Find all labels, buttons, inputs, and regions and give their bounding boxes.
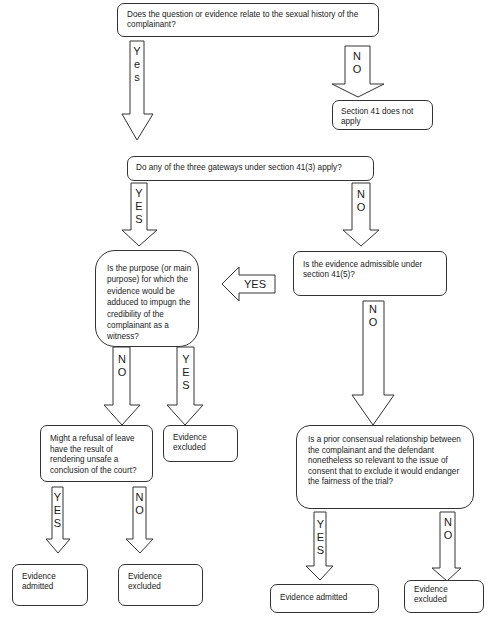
node-evidence-admitted-prior: Evidence admitted (270, 584, 379, 613)
flow-arrows (0, 0, 489, 626)
node-evidence-admitted-refusal: Evidence admitted (12, 564, 88, 606)
node-sexual-history-question: Does the question or evidence relate to … (117, 3, 379, 37)
node-admissible-41-5-question: Is the evidence admissible under section… (293, 251, 447, 296)
node-prior-relationship-question: Is a prior consensual relationship betwe… (296, 425, 474, 509)
edge-label-no-admissible: N O (366, 303, 380, 329)
edge-label-yes-purpose: Y E S (179, 353, 193, 392)
edge-label-no-purpose: N O (115, 353, 129, 379)
node-section41-does-not-apply: Section 41 does not apply (332, 100, 433, 130)
edge-label-no-sexual-history: N O (350, 50, 364, 76)
edge-label-no-prior: N O (441, 516, 455, 542)
node-purpose-question: Is the purpose (or main purpose) for whi… (95, 250, 199, 347)
edge-label-yes-admissible: YES (236, 278, 274, 291)
edge-label-yes-gateways: Y E S (132, 187, 146, 226)
node-evidence-excluded-refusal: Evidence excluded (118, 564, 203, 606)
edge-label-yes-prior: Y E S (314, 518, 327, 557)
edge-label-no-gateways: N O (354, 188, 368, 214)
node-refusal-of-leave-question: Might a refusal of leave have the result… (40, 425, 153, 482)
node-evidence-excluded-prior: Evidence excluded (404, 580, 484, 613)
edge-label-yes-refusal: Y E S (51, 491, 64, 530)
node-gateways-question: Do any of the three gateways under secti… (127, 156, 374, 181)
node-evidence-excluded-purpose: Evidence excluded (163, 425, 238, 462)
edge-label-no-refusal: N O (133, 491, 146, 517)
edge-label-yes-sexual-history: Y e s (130, 45, 144, 84)
